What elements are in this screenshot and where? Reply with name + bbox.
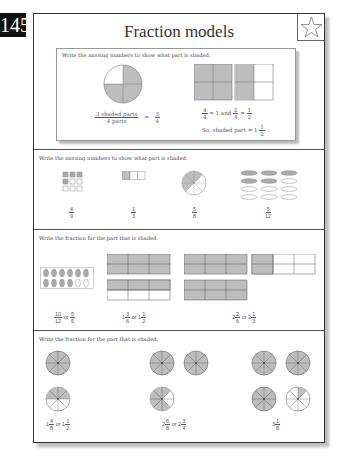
example-right-line2: So, shaded part = 1 12: [202, 124, 265, 137]
example-squares-icon: [194, 64, 274, 102]
answer-2-2: 13: [131, 206, 136, 219]
answer-3-3: 226 or 213: [232, 311, 256, 324]
sixths-bars-icon: [184, 254, 316, 302]
divider: [34, 149, 324, 150]
star-icon: [297, 14, 324, 41]
answer-2-1: 49: [69, 206, 74, 219]
example-box: Write the missing numbers to show what p…: [56, 48, 296, 141]
answer-4-3: 318: [272, 418, 280, 431]
example-left-equation: 3 shaded parts4 parts = 34: [95, 111, 160, 124]
ovals-vertical-icon: [40, 267, 94, 289]
grid-squares-icon: [62, 171, 84, 193]
page-number-badge: 145: [0, 13, 26, 37]
section2-instruction: Write the missing numbers to show what p…: [39, 155, 188, 161]
divider: [34, 330, 324, 331]
eighths-pie-icon: [181, 170, 207, 196]
ovals-group-icon: [240, 170, 298, 202]
sixths-bars-icon: [107, 254, 171, 302]
example-instruction: Write the missing numbers to show what p…: [62, 52, 211, 58]
worksheet: Fraction models Write the missing number…: [33, 13, 325, 443]
answer-3-1: 1012 or 56: [54, 311, 75, 324]
divider: [34, 229, 324, 230]
answer-4-2: 268 or 234: [162, 418, 186, 431]
page-title: Fraction models: [34, 22, 324, 42]
thirds-bar-icon: [122, 171, 146, 180]
section4-instruction: Write the fraction for the part that is …: [39, 336, 158, 342]
answer-3-2: 136 or 112: [122, 311, 146, 324]
answer-2-3: 58: [192, 206, 197, 219]
answer-4-1: 148 or 112: [46, 418, 70, 431]
example-pie-icon: [102, 63, 144, 105]
example-right-line1: 44 = 1 and 24 = 12: [202, 107, 252, 120]
section3-instruction: Write the fraction for the part that is …: [39, 235, 158, 241]
pie-groups-icon: [34, 349, 324, 415]
answer-2-4: 512: [265, 206, 271, 219]
